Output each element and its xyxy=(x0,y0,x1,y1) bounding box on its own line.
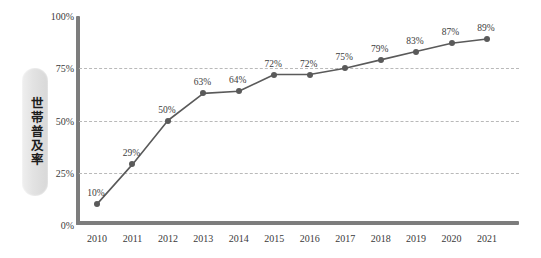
x-tick-label: 2021 xyxy=(477,233,497,244)
x-tick-label: 2011 xyxy=(123,233,143,244)
x-tick-label: 2013 xyxy=(193,233,213,244)
x-tick-label: 2015 xyxy=(264,233,284,244)
x-tick-label: 2020 xyxy=(442,233,462,244)
x-tick-label: 2014 xyxy=(229,233,249,244)
x-tick-label: 2016 xyxy=(300,233,320,244)
x-tick-label: 2010 xyxy=(87,233,107,244)
x-tick-label: 2012 xyxy=(158,233,178,244)
x-tick-label: 2017 xyxy=(335,233,355,244)
chart-container: 世帯普及率 0%25%50%75%100% 10%29%50%63%64%72%… xyxy=(0,0,541,258)
x-axis-tick-labels: 2010201120122013201420152016201720182019… xyxy=(0,0,541,258)
x-tick-label: 2018 xyxy=(371,233,391,244)
x-tick-label: 2019 xyxy=(406,233,426,244)
